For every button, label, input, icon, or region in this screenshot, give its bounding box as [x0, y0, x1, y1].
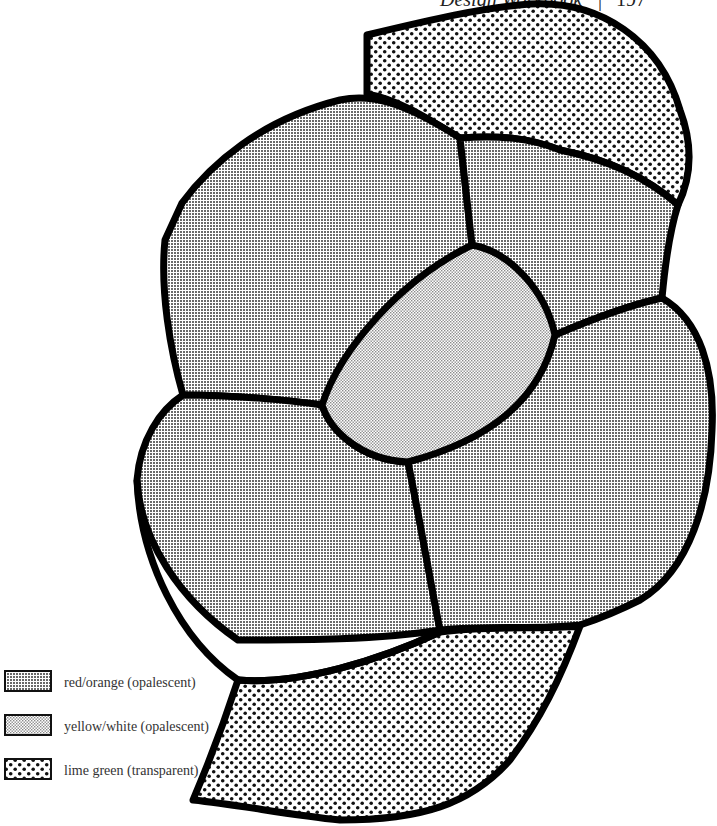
legend-label: lime green (transparent)	[64, 763, 199, 779]
swatch-fine-stipple-icon	[4, 714, 52, 736]
stained-glass-pattern	[0, 0, 717, 826]
swatch-coarse-dots-icon	[4, 758, 52, 780]
legend-label: yellow/white (opalescent)	[64, 719, 209, 735]
swatch-dense-grid-icon	[4, 670, 52, 692]
legend-label: red/orange (opalescent)	[64, 675, 196, 691]
